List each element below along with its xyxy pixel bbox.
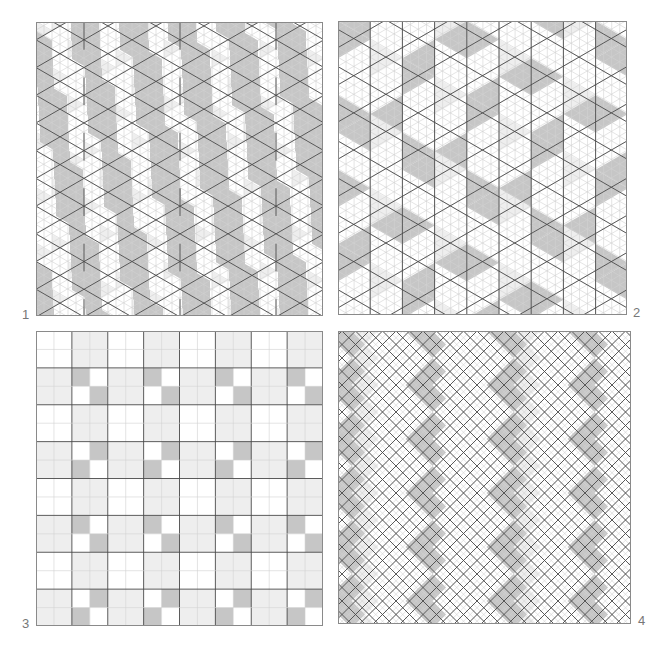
pattern-panel-2 (338, 21, 627, 315)
panel-label-3: 3 (22, 617, 29, 630)
pattern-panel-1 (36, 22, 323, 316)
panel-label-4: 4 (638, 614, 645, 627)
pattern-svg-4 (338, 331, 631, 624)
pattern-panel-3 (36, 331, 323, 626)
panel-label-1: 1 (22, 308, 29, 321)
pattern-svg-3 (36, 331, 323, 626)
pattern-svg-2 (338, 21, 627, 315)
pattern-svg-1 (36, 22, 323, 316)
pattern-panel-4 (338, 331, 631, 624)
panel-label-2: 2 (633, 306, 640, 319)
